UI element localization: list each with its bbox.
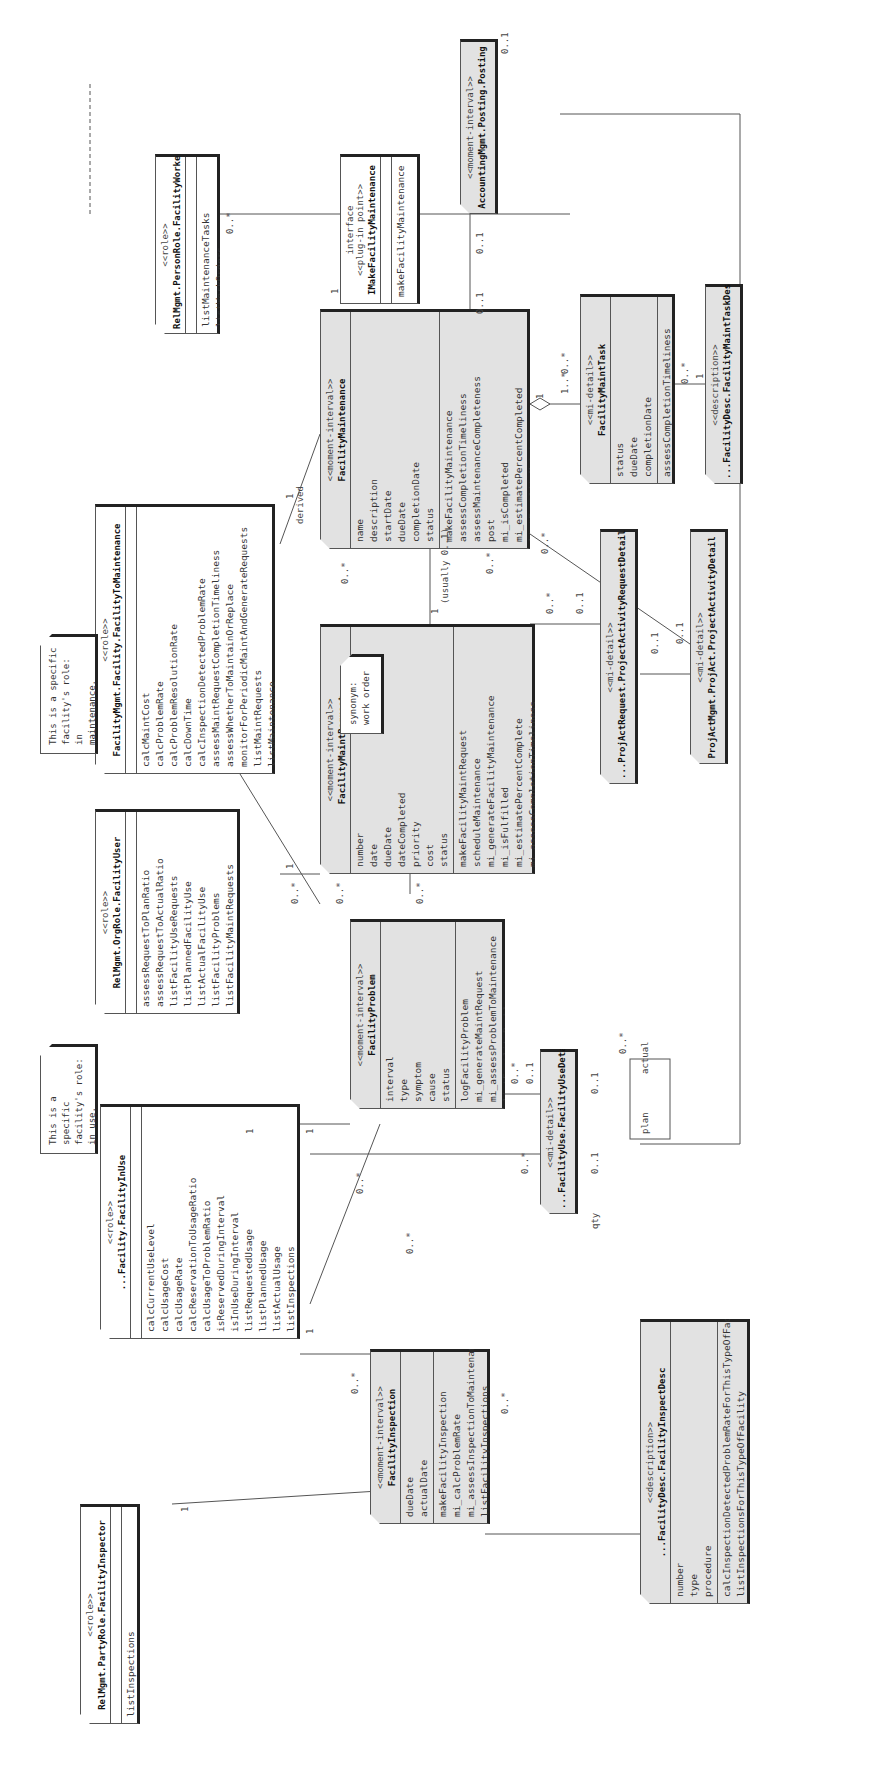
class-project-activity-detail[interactable]: <<mi-detail>>ProjActMgmt.ProjAct.Project… (690, 529, 728, 764)
mult-label: 0..* (680, 362, 690, 384)
mult-label: 0..* (540, 532, 550, 554)
mult-label: 0..* (520, 1152, 530, 1174)
class-facility-inspection[interactable]: <<moment-interval>>FacilityInspection du… (370, 1349, 490, 1524)
class-facility-maint-task[interactable]: <<mi-detail>>FacilityMaintTask status du… (580, 294, 675, 484)
class-facility-maintenance[interactable]: <<moment-interval>>FacilityMaintenance n… (320, 309, 530, 549)
class-facility-in-use[interactable]: <<role>>...Facility.FacilityInUse calcCu… (100, 1104, 300, 1339)
class-facility-inspect-desc[interactable]: <<description>>...FacilityDesc.FacilityI… (640, 1319, 750, 1604)
mult-label: 1..* (560, 372, 570, 394)
class-facility-maint-task-desc[interactable]: <<description>>...FacilityDesc.FacilityM… (705, 284, 743, 484)
class-facility-problem[interactable]: <<moment-interval>>FacilityProblem inter… (350, 919, 505, 1109)
mult-label: 0..1 (590, 1152, 600, 1174)
mult-label: 1 (330, 289, 340, 294)
mult-label: 0..1 (525, 1062, 535, 1084)
mult-label: 0..1 (475, 232, 485, 254)
mult-label: 0..* (290, 882, 300, 904)
mult-label: 0..* (510, 1062, 520, 1084)
mult-label: 1 (695, 374, 705, 379)
uml-class-diagram: <<role>>RelMgmt.PartyRole.FacilityInspec… (0, 0, 886, 1774)
mult-label: 1 (535, 394, 545, 399)
mult-label: 0..* (355, 1172, 365, 1194)
mult-label: 0..1 (500, 32, 510, 54)
mult-label: 1 (285, 864, 295, 869)
mult-label: 1 (245, 1129, 255, 1134)
mult-label: 1 (305, 1129, 315, 1134)
mult-label: 1 (430, 609, 440, 614)
class-facility-inspector[interactable]: <<role>>RelMgmt.PartyRole.FacilityInspec… (80, 1504, 140, 1724)
mult-label: 0..1 (650, 632, 660, 654)
mult-label: 1 (305, 1329, 315, 1334)
note-maintenance: This is a specific facility's role: in m… (40, 634, 98, 754)
plan-label: plan (640, 1112, 650, 1134)
interface-imake-facility-maintenance[interactable]: interface <<plug-in point>>IMakeFacility… (340, 154, 420, 304)
mult-label: 0..1 (590, 1072, 600, 1094)
mult-label: 0..1 (475, 292, 485, 314)
class-facility-use-detail[interactable]: <<mi-detail>>...FacilityUse.FacilityUseD… (540, 1049, 578, 1214)
mult-label: 0..1 (575, 592, 585, 614)
class-facility-to-maintenance[interactable]: <<role>>FacilityMgmt.Facility.FacilityTo… (95, 504, 275, 774)
mult-label: 0..* (405, 1232, 415, 1254)
usually-label: (usually 0..1) (440, 528, 450, 604)
mult-label: 0..* (560, 352, 570, 374)
mult-label: 0..* (225, 212, 235, 234)
class-project-activity-request-detail[interactable]: <<mi-detail>>...ProjActRequest.ProjectAc… (600, 529, 638, 784)
mult-label: 0..* (485, 552, 495, 574)
qty-label: qty (590, 1213, 600, 1229)
mult-label: 0..* (340, 562, 350, 584)
mult-label: 0..* (618, 1032, 628, 1054)
class-facility-user[interactable]: <<role>>RelMgmt.OrgRole.FacilityUser ass… (95, 809, 240, 1014)
mult-label: 1 (180, 1507, 190, 1512)
class-facility-worker[interactable]: <<role>>RelMgmt.PersonRole.FacilityWorke… (155, 154, 220, 334)
mult-label: 0..1 (675, 622, 685, 644)
mult-label: 0..* (335, 882, 345, 904)
class-accounting-posting[interactable]: <<moment-interval>>AccountingMgmt.Postin… (460, 39, 498, 214)
mult-label: 0..* (350, 1372, 360, 1394)
mult-label: 0..* (415, 882, 425, 904)
note-in-use: This is a specific facility's role: in u… (40, 1044, 98, 1154)
derived-label: derived (295, 486, 305, 524)
mult-label: 1 (285, 494, 295, 499)
mult-label: 0..* (545, 592, 555, 614)
mult-label: 0..* (500, 1392, 510, 1414)
actual-label: actual (640, 1041, 650, 1074)
note-work-order: synonym: work order (340, 654, 384, 734)
